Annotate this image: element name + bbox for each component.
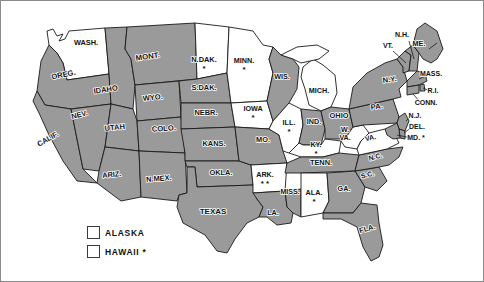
map-legend: ALASKAHAWAII *: [87, 223, 147, 261]
us-map-svg: WASH.OREG.CALIF.NEV.IDAHOMONT.WYO.UTAHCO…: [1, 1, 484, 282]
state-label-MISS: MISS.: [280, 188, 299, 195]
state-label-MICH: MICH.: [309, 86, 329, 95]
state-label-RI: R.I.: [428, 87, 439, 94]
state-label-COLO: COLO.: [152, 123, 177, 134]
state-label-PA: PA.: [370, 101, 383, 112]
state-label-LA: LA.: [267, 208, 279, 217]
state-label-DEL: DEL.: [409, 123, 425, 130]
state-label-MINN: MINN.: [234, 56, 254, 65]
state-shape-MINN[interactable]: [227, 27, 273, 103]
legend-label-hawaii: HAWAII *: [105, 247, 147, 257]
state-label-NDAK: N.DAK.: [191, 55, 216, 64]
us-map-figure: WASH.OREG.CALIF.NEV.IDAHOMONT.WYO.UTAHCO…: [0, 0, 484, 282]
legend-label-alaska: ALASKA: [105, 228, 145, 238]
legend-swatch-hawaii: [87, 245, 100, 258]
state-label-NMEX: N.MEX.: [146, 173, 172, 184]
state-label-NY: N.Y.: [382, 74, 397, 85]
state-label-IND: IND.: [307, 117, 321, 126]
state-label-WVA-line2: VA.: [339, 134, 350, 141]
state-label-TENN: TENN.: [310, 158, 332, 167]
state-shape-COLO[interactable]: [137, 117, 185, 153]
state-label-OHIO: OHIO: [330, 111, 349, 120]
state-shape-CONN[interactable]: [407, 85, 419, 95]
state-label-WASH: WASH.: [74, 38, 98, 47]
state-label-VT: VT.: [383, 42, 393, 49]
state-label-WVA: W.: [341, 126, 349, 133]
state-label-KY: KY.: [310, 140, 321, 149]
state-label-WIS: WIS.: [274, 72, 290, 81]
state-shape-NDAK[interactable]: [195, 23, 229, 79]
state-label-KANS: KANS.: [203, 139, 226, 148]
state-label-ARK: ARK.: [256, 170, 274, 179]
state-shape-RI[interactable]: [420, 84, 425, 91]
legend-swatch-alaska: [87, 226, 100, 239]
legend-item-alaska[interactable]: ALASKA: [87, 223, 147, 242]
state-label-OKLA: OKLA.: [210, 168, 233, 177]
state-label-CONN: CONN.: [415, 99, 438, 106]
state-label-SDAK: S.DAK.: [191, 83, 216, 92]
state-label-IOWA: IOWA: [243, 104, 262, 113]
state-asterisk-ARK: * *: [261, 179, 270, 188]
state-label-ILL: ILL.: [283, 118, 296, 127]
state-label-ME: ME.: [413, 39, 426, 48]
state-label-MO: MO.: [256, 135, 270, 144]
legend-item-hawaii[interactable]: HAWAII *: [87, 242, 147, 261]
state-label-TEXAS: TEXAS: [200, 207, 227, 216]
state-label-NH: N.H.: [395, 31, 409, 38]
state-label-MASS: MASS.: [420, 70, 442, 77]
state-shape-MICH[interactable]: [301, 59, 337, 111]
state-label-ALA: ALA.: [306, 188, 323, 197]
state-label-NEBR: NEBR.: [195, 108, 218, 117]
state-label-GA: GA.: [338, 184, 351, 193]
state-label-MD: MD. *: [407, 134, 425, 141]
state-label-NJ: N.J.: [409, 112, 422, 119]
